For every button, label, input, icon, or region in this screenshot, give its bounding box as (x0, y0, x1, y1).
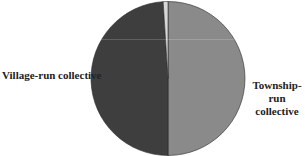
township-label-line2: collective (255, 105, 298, 117)
slice-label-village-run-collective: Village-run collective (2, 69, 101, 82)
township-label-line1: Township-run (252, 79, 301, 104)
pie-slice-township-run-collective (168, 2, 245, 156)
pie-slice-village-run-collective (91, 2, 168, 156)
scan-artifact-line (98, 39, 234, 40)
pie-chart: Village-run collective Township-run coll… (0, 0, 305, 156)
slice-label-township-run-collective: Township-run collective (248, 79, 305, 118)
